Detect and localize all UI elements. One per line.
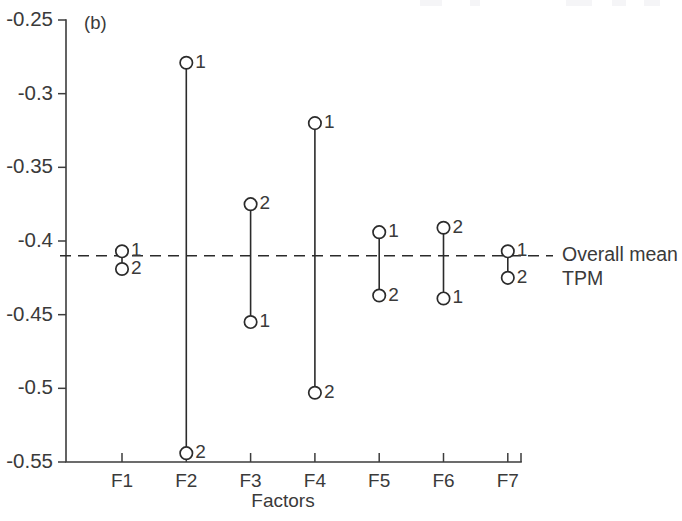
- y-axis-tick-label: -0.45: [0, 302, 53, 326]
- data-point-level-label: 2: [517, 266, 528, 288]
- x-axis-tick-label-f6: F6: [414, 470, 474, 492]
- x-axis-tick-label-f7: F7: [478, 470, 538, 492]
- y-axis-tick-label: -0.55: [0, 449, 53, 473]
- data-point-marker: [180, 447, 192, 459]
- factor-effects-figure: -0.25-0.3-0.35-0.4-0.45-0.5-0.55 F1F2F3F…: [0, 0, 682, 521]
- data-point-level-label: 2: [195, 441, 206, 463]
- x-axis-tick-label-f4: F4: [285, 470, 345, 492]
- mean-line-label-line2: TPM: [562, 267, 678, 291]
- data-point-level-label: 1: [517, 239, 528, 261]
- y-axis-tick-label: -0.25: [0, 7, 53, 31]
- data-series: [116, 57, 514, 460]
- data-point-marker: [502, 245, 514, 257]
- data-point-level-label: 2: [260, 192, 271, 214]
- data-point-marker: [244, 198, 256, 210]
- data-point-level-label: 2: [324, 381, 335, 403]
- data-point-marker: [373, 226, 385, 238]
- data-point-level-label: 1: [260, 310, 271, 332]
- x-axis-tick-label-f2: F2: [156, 470, 216, 492]
- data-point-level-label: 2: [453, 216, 464, 238]
- data-point-level-label: 1: [195, 51, 206, 73]
- data-point-marker: [437, 222, 449, 234]
- data-point-marker: [502, 272, 514, 284]
- y-axis-tick-label: -0.35: [0, 154, 53, 178]
- data-point-level-label: 2: [388, 284, 399, 306]
- x-axis-tick-label-f1: F1: [92, 470, 152, 492]
- data-point-marker: [309, 387, 321, 399]
- data-point-marker: [244, 316, 256, 328]
- data-point-level-label: 1: [324, 111, 335, 133]
- x-axis-tick-label-f3: F3: [221, 470, 281, 492]
- data-point-marker: [373, 289, 385, 301]
- x-axis-tick-label-f5: F5: [349, 470, 409, 492]
- axes: [58, 20, 521, 462]
- y-axis-tick-label: -0.5: [0, 375, 53, 399]
- data-point-marker: [116, 245, 128, 257]
- mean-line-label-line1: Overall mean: [562, 243, 678, 267]
- data-point-level-label: 2: [131, 257, 142, 279]
- y-axis-tick-label: -0.4: [0, 228, 53, 252]
- data-point-level-label: 1: [388, 220, 399, 242]
- panel-label: (b): [84, 12, 107, 34]
- mean-line-label: Overall mean TPM: [562, 243, 678, 291]
- data-point-marker: [180, 57, 192, 69]
- data-point-marker: [437, 292, 449, 304]
- data-point-level-label: 1: [453, 286, 464, 308]
- x-axis-title: Factors: [0, 490, 566, 512]
- data-point-marker: [116, 263, 128, 275]
- y-axis-tick-label: -0.3: [0, 81, 53, 105]
- data-point-marker: [309, 117, 321, 129]
